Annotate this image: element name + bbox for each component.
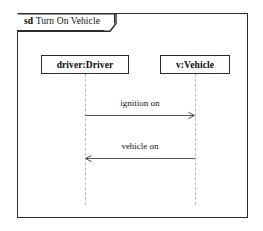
message-arrow-ignition-on xyxy=(85,111,195,120)
lifeline-head-vehicle[interactable]: v:Vehicle xyxy=(160,55,230,74)
lifeline-head-driver[interactable]: driver:Driver xyxy=(41,55,129,74)
message-arrow-vehicle-on xyxy=(85,154,195,163)
lifeline-label-driver: driver:Driver xyxy=(57,60,114,70)
diagram-canvas: sd Turn On Vehicle driver:Driver v:Vehic… xyxy=(0,0,263,231)
message-vehicle-on[interactable]: vehicle on xyxy=(85,141,195,163)
diagram-title-text: sd Turn On Vehicle xyxy=(17,17,100,27)
lifeline-label-vehicle: v:Vehicle xyxy=(176,60,214,70)
diagram-title-tab: sd Turn On Vehicle xyxy=(17,13,115,31)
message-label-vehicle-on: vehicle on xyxy=(85,141,195,152)
lifeline-driver xyxy=(85,74,86,205)
message-ignition-on[interactable]: ignition on xyxy=(85,98,195,120)
lifeline-vehicle xyxy=(195,74,196,205)
diagram-keyword: sd xyxy=(24,16,33,26)
diagram-name: Turn On Vehicle xyxy=(36,16,100,26)
message-label-ignition-on: ignition on xyxy=(85,98,195,109)
